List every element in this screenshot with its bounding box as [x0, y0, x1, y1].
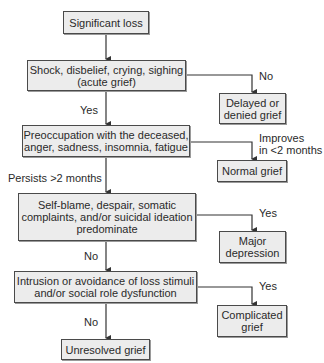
edge-label-shock-no: No	[259, 70, 273, 82]
node-text: Major	[239, 235, 267, 247]
node-text: Normal grief	[222, 165, 282, 177]
node-text: (acute grief)	[77, 76, 136, 88]
edge-label-self-blame-no: No	[84, 250, 98, 262]
node-text: depression	[226, 247, 280, 259]
node-delayed-denied-grief: Delayed or denied grief	[219, 93, 286, 124]
node-text: Intrusion or avoidance of loss stimuli	[17, 275, 194, 287]
edge-label-persists: Persists >2 months	[8, 172, 102, 184]
node-text: predominate	[76, 223, 137, 235]
node-text: Unresolved grief	[65, 344, 145, 356]
edge-label-improves: Improves	[259, 132, 304, 144]
edge-label-improves-time: in <2 months	[259, 144, 322, 156]
edge-label-intrusion-yes: Yes	[259, 280, 277, 292]
node-text: denied grief	[224, 109, 282, 121]
node-unresolved-grief: Unresolved grief	[61, 339, 150, 360]
edge-label-intrusion-no: No	[84, 316, 98, 328]
edge-label-shock-yes: Yes	[80, 104, 98, 116]
node-text: Preoccupation with the deceased,	[23, 129, 188, 141]
node-intrusion-avoidance: Intrusion or avoidance of loss stimuli a…	[14, 271, 197, 303]
node-complicated-grief: Complicated grief	[217, 305, 287, 337]
node-normal-grief: Normal grief	[217, 160, 287, 182]
node-text: Shock, disbelief, crying, sighing	[30, 64, 183, 76]
node-preoccupation: Preoccupation with the deceased, anger, …	[22, 125, 190, 157]
node-text: complaints, and/or suicidal ideation	[21, 211, 192, 223]
node-text: anger, sadness, insomnia, fatigue	[24, 141, 188, 153]
node-significant-loss: Significant loss	[63, 11, 149, 34]
node-major-depression: Major depression	[219, 231, 286, 263]
node-text: Significant loss	[69, 17, 142, 29]
node-text: Self-blame, despair, somatic	[38, 199, 176, 211]
node-text: Delayed or	[226, 97, 279, 109]
node-shock-acute-grief: Shock, disbelief, crying, sighing (acute…	[27, 60, 186, 91]
node-text: Complicated	[221, 309, 282, 321]
node-self-blame: Self-blame, despair, somatic complaints,…	[18, 193, 196, 241]
edge-label-self-blame-yes: Yes	[259, 207, 277, 219]
node-text: grief	[241, 321, 262, 333]
node-text: and/or social role dysfunction	[34, 287, 176, 299]
